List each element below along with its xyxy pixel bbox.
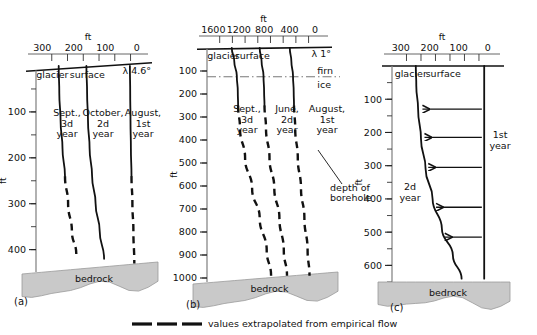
ice-label-b: ice	[317, 79, 331, 90]
slope-angle-label-a: λ 4.6°	[123, 65, 152, 76]
surface-label-surface-b: surface	[235, 50, 270, 61]
curve-label-c-1: 1st	[493, 129, 508, 140]
curve-label-b-1: June,	[274, 103, 299, 114]
curve-label-b-2: August,	[309, 103, 345, 114]
panel-c: ft3002001000glaciersurface10020030040050…	[354, 32, 510, 309]
x-tick-label-a: 0	[134, 42, 140, 53]
y-tick-label-b: 700	[179, 203, 197, 214]
curve-label-b-1: year	[276, 124, 297, 135]
panel-caption-a: (a)	[14, 296, 28, 307]
y-tick-label-c: 200	[364, 127, 382, 138]
legend: values extrapolated from empirical flow	[132, 318, 398, 329]
curve-label-b-2: 1st	[320, 114, 335, 125]
panel-caption-c: (c)	[390, 302, 403, 313]
y-tick-label-c: 500	[364, 227, 382, 238]
bedrock-label-c: bedrock	[429, 287, 468, 298]
y-tick-label-b: 100	[179, 65, 197, 76]
y-tick-label-b: 600	[179, 180, 197, 191]
panel-b: ft160012008004000glaciersurfaceλ 1°10020…	[169, 14, 340, 307]
axis-unit-top-a: ft	[85, 32, 92, 42]
y-tick-label-b: 800	[179, 226, 197, 237]
glacier-borehole-deformation-figure: ft3002001000glaciersurfaceλ 4.6°10020030…	[0, 0, 537, 335]
curve-label-b-2: year	[316, 124, 337, 135]
axis-unit-top-b: ft	[260, 14, 267, 24]
curve-label-a-2: August,	[125, 107, 161, 118]
bedrock-label-a: bedrock	[75, 273, 114, 284]
borehole-curve-extrapolated-a-0	[65, 176, 76, 254]
curve-label-a-0: 3d	[61, 118, 73, 129]
firn-label-b: firn	[317, 65, 333, 76]
y-tick-label-a: 200	[8, 152, 26, 163]
curve-label-b-0: year	[236, 124, 257, 135]
y-tick-label-b: 900	[179, 249, 197, 260]
figure-svg: ft3002001000glaciersurfaceλ 4.6°10020030…	[0, 0, 537, 335]
depth-of-borehole-leader	[318, 150, 342, 184]
curve-label-a-2: year	[132, 128, 153, 139]
y-tick-label-b: 200	[179, 88, 197, 99]
curve-label-c-1: year	[489, 140, 510, 151]
x-tick-label-b: 400	[280, 24, 298, 35]
axis-unit-left-a: ft	[0, 177, 8, 184]
x-tick-label-a: 100	[96, 42, 114, 53]
curve-label-c-0: year	[399, 192, 420, 203]
borehole-curve-c-0	[416, 66, 462, 279]
bedrock-label-b: bedrock	[250, 283, 289, 294]
panel-a: ft3002001000glaciersurfaceλ 4.6°10020030…	[0, 32, 158, 297]
x-tick-label-c: 200	[421, 42, 439, 53]
y-tick-label-c: 300	[364, 160, 382, 171]
y-tick-label-b: 300	[179, 111, 197, 122]
surface-label-surface-c: surface	[426, 68, 461, 79]
x-tick-label-b: 1600	[201, 24, 225, 35]
curve-label-b-0: Sept.,	[233, 103, 261, 114]
borehole-curve-a-2	[130, 66, 132, 176]
axis-unit-left-b: ft	[169, 171, 179, 178]
y-tick-label-b: 500	[179, 157, 197, 168]
depth-of-borehole-label: borehole	[330, 192, 372, 203]
y-tick-label-a: 400	[8, 244, 26, 255]
x-tick-label-b: 0	[312, 24, 318, 35]
y-tick-label-b: 1000	[173, 272, 197, 283]
slope-angle-label-b: λ 1°	[312, 48, 331, 59]
x-tick-label-b: 800	[255, 24, 273, 35]
curve-label-a-0: year	[56, 128, 77, 139]
curve-label-a-2: 1st	[136, 118, 151, 129]
curve-label-a-0: Sept.,	[53, 107, 81, 118]
x-tick-label-c: 100	[450, 42, 468, 53]
curve-label-a-1: 2d	[97, 118, 109, 129]
x-tick-label-c: 300	[392, 42, 410, 53]
y-tick-label-a: 300	[8, 198, 26, 209]
curve-label-b-1: 2d	[281, 114, 293, 125]
legend-text: values extrapolated from empirical flow	[208, 318, 398, 329]
surface-label-glacier-a: glacier	[36, 69, 68, 80]
curve-label-c-0: 2d	[404, 181, 416, 192]
y-tick-label-b: 400	[179, 134, 197, 145]
borehole-curve-a-1	[86, 66, 104, 259]
surface-label-glacier-c: glacier	[395, 68, 427, 79]
axis-unit-top-c: ft	[439, 32, 446, 42]
curve-label-a-1: October,	[82, 107, 123, 118]
borehole-curve-extrapolated-a-2	[132, 176, 135, 263]
y-tick-label-c: 600	[364, 260, 382, 271]
y-tick-label-c: 100	[364, 94, 382, 105]
x-tick-label-c: 0	[485, 42, 491, 53]
x-tick-label-a: 300	[33, 42, 51, 53]
x-tick-label-b: 1200	[227, 24, 251, 35]
curve-label-a-1: year	[92, 128, 113, 139]
curve-label-b-0: 3d	[241, 114, 253, 125]
x-tick-label-a: 200	[65, 42, 83, 53]
y-tick-label-a: 100	[8, 106, 26, 117]
panel-caption-b: (b)	[186, 299, 200, 310]
